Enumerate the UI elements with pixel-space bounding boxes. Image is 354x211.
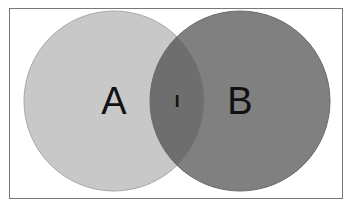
figure-frame-border bbox=[9, 8, 343, 199]
venn-diagram-canvas: A I B bbox=[0, 0, 354, 211]
